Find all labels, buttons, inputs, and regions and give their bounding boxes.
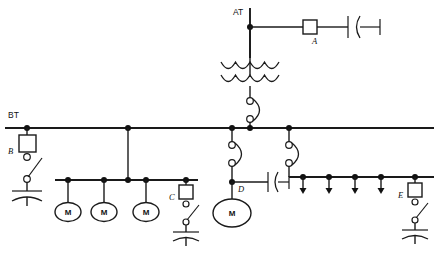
switch-c-blade[interactable] bbox=[187, 205, 199, 220]
switch-c-lower-contact[interactable] bbox=[183, 219, 189, 225]
feeder-c-group[interactable] bbox=[173, 180, 199, 246]
load-feeder-1-arrow-icon bbox=[300, 188, 307, 194]
load-feeder-4-arrow-icon bbox=[378, 188, 385, 194]
feeder-b-group[interactable] bbox=[12, 128, 42, 206]
motor-3-group[interactable]: M bbox=[133, 180, 159, 222]
main-breaker-lower-contact[interactable] bbox=[247, 116, 254, 123]
device-c-label: C bbox=[169, 192, 175, 202]
transformer-group bbox=[221, 27, 279, 98]
breaker-d-arc bbox=[235, 143, 242, 165]
main-breaker-upper-contact[interactable] bbox=[247, 98, 254, 105]
load-feeder-3-arrow-icon bbox=[352, 188, 359, 194]
feeder-d-group[interactable]: M bbox=[213, 128, 289, 227]
switch-e-upper-contact[interactable] bbox=[412, 199, 418, 205]
device-a-label: A bbox=[311, 36, 318, 46]
bt-bus-group bbox=[5, 125, 434, 131]
device-b-box[interactable] bbox=[19, 135, 36, 152]
breaker-e-arc bbox=[292, 143, 299, 165]
load-feeder-3[interactable] bbox=[352, 174, 359, 194]
motor-2-label: M bbox=[101, 208, 108, 217]
switch-e-blade[interactable] bbox=[416, 203, 428, 218]
device-e-box[interactable] bbox=[408, 183, 422, 197]
feeder-a-disconnect-arc bbox=[357, 16, 361, 38]
switch-b-blade[interactable] bbox=[28, 158, 42, 177]
breaker-e-upper-contact[interactable] bbox=[286, 142, 293, 149]
switch-b-lower-contact[interactable] bbox=[24, 176, 31, 183]
breaker-d-lower-contact[interactable] bbox=[229, 160, 236, 167]
switch-c-upper-contact[interactable] bbox=[183, 201, 189, 207]
feeder-e-group[interactable] bbox=[286, 128, 434, 177]
breaker-e-lower-contact[interactable] bbox=[286, 160, 293, 167]
switch-b-upper-contact[interactable] bbox=[24, 154, 31, 161]
bt-bus-label: BT bbox=[8, 110, 19, 120]
device-b-label: B bbox=[8, 146, 13, 156]
at-bus-label: AT bbox=[233, 7, 243, 17]
main-breaker-arc bbox=[253, 99, 260, 121]
main-breaker-group[interactable] bbox=[247, 98, 260, 128]
breaker-d-upper-contact[interactable] bbox=[229, 142, 236, 149]
motor-1-group[interactable]: M bbox=[55, 180, 81, 222]
single-line-diagram: AT A bbox=[0, 0, 439, 253]
motor-subfeeder-node-tie bbox=[125, 177, 131, 183]
motor-subfeeder-group bbox=[55, 128, 198, 183]
transformer-secondary-winding bbox=[221, 75, 279, 82]
switch-e-lower-contact[interactable] bbox=[412, 217, 418, 223]
load-feeder-2[interactable] bbox=[326, 174, 333, 194]
motor-4-label: M bbox=[229, 209, 236, 218]
single-line-diagram-canvas: AT A bbox=[0, 0, 439, 253]
motor-3-label: M bbox=[143, 208, 150, 217]
feeder-e-capacitor-group[interactable] bbox=[402, 177, 428, 244]
motor-1-label: M bbox=[65, 208, 72, 217]
device-a-box[interactable] bbox=[303, 20, 317, 34]
device-d-label: D bbox=[237, 184, 245, 194]
load-feeder-2-arrow-icon bbox=[326, 188, 333, 194]
device-e-label: E bbox=[397, 190, 404, 200]
feeder-a-group[interactable] bbox=[250, 16, 380, 38]
device-c-box[interactable] bbox=[179, 185, 193, 199]
bt-bus-node-incomer bbox=[247, 125, 253, 131]
motor-2-group[interactable]: M bbox=[91, 180, 117, 222]
load-feeder-4[interactable] bbox=[378, 174, 385, 194]
feeder-d-disconnect-arc bbox=[275, 172, 278, 192]
load-feeder-1[interactable] bbox=[300, 174, 307, 194]
